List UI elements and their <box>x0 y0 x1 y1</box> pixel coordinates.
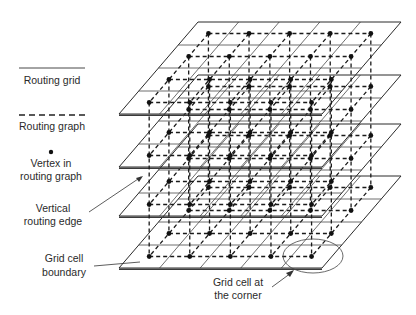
routing-vertex <box>206 133 211 138</box>
routing-vertex <box>186 208 191 213</box>
routing-vertex <box>248 179 253 184</box>
routing-vertex <box>269 100 274 105</box>
routing-vertex <box>309 254 314 259</box>
routing-vertex <box>329 231 334 236</box>
vertex-label-line2: routing graph <box>20 170 82 182</box>
routing-vertex <box>269 202 274 207</box>
routing-vertex <box>328 185 333 190</box>
routing-vertex <box>287 185 292 190</box>
routing-vertex <box>227 107 232 112</box>
routing-vertex <box>329 77 334 82</box>
routing-vertex <box>228 100 233 105</box>
routing-vertex <box>329 179 334 184</box>
routing-vertex <box>287 84 292 89</box>
routing-vertex <box>368 185 373 190</box>
routing-vertex <box>368 84 373 89</box>
routing-vertex <box>206 31 211 36</box>
routing-vertex <box>227 156 232 161</box>
vertex-label-line1: Vertex in <box>31 157 72 169</box>
routing-vertex <box>167 231 172 236</box>
routing-vertex <box>247 31 252 36</box>
routing-vertex <box>147 100 152 105</box>
vertical-edge-label-line2: routing edge <box>24 215 83 227</box>
routing-vertex <box>349 208 354 213</box>
routing-vertex <box>247 133 252 138</box>
grid-boundary-label-line1: Grid cell <box>45 252 84 264</box>
routing-vertex <box>227 208 232 213</box>
routing-vertex <box>147 202 152 207</box>
routing-vertex <box>206 84 211 89</box>
routing-vertex <box>328 133 333 138</box>
routing-vertex <box>147 254 152 259</box>
legend: Routing grid Routing graph Vertex in rou… <box>19 68 143 278</box>
layer-stack <box>119 22 401 269</box>
routing-vertex <box>228 254 233 259</box>
routing-vertex <box>269 254 274 259</box>
routing-vertex <box>368 133 373 138</box>
routing-vertex <box>167 130 172 135</box>
routing-vertex <box>349 107 354 112</box>
routing-vertex <box>186 156 191 161</box>
routing-vertex <box>287 133 292 138</box>
routing-vertex <box>228 202 233 207</box>
routing-vertex <box>227 54 232 59</box>
routing-vertex <box>187 100 192 105</box>
routing-vertex <box>187 254 192 259</box>
routing-vertex <box>309 100 314 105</box>
routing-vertex <box>267 156 272 161</box>
routing-vertex <box>247 84 252 89</box>
routing-vertex <box>206 185 211 190</box>
corner-label-line2: the corner <box>214 289 262 301</box>
routing-vertex <box>328 31 333 36</box>
corner-label-line1: Grid cell at <box>213 276 263 288</box>
routing-vertex <box>207 179 212 184</box>
routing-vertex <box>187 202 192 207</box>
routing-vertex <box>267 107 272 112</box>
routing-vertex <box>207 231 212 236</box>
routing-vertex <box>267 54 272 59</box>
routing-vertex <box>308 208 313 213</box>
routing-vertex <box>247 185 252 190</box>
routing-vertex <box>186 107 191 112</box>
routing-vertex <box>328 84 333 89</box>
routing-grid-label: Routing grid <box>24 74 81 86</box>
routing-vertex <box>186 54 191 59</box>
routing-vertex <box>349 54 354 59</box>
routing-vertex <box>267 208 272 213</box>
routing-vertex <box>309 202 314 207</box>
vertical-edge-label-line1: Vertical <box>36 202 70 214</box>
routing-vertex <box>167 179 172 184</box>
routing-vertex <box>349 156 354 161</box>
routing-vertex <box>368 31 373 36</box>
routing-vertex <box>167 77 172 82</box>
3d-routing-grid-diagram: Routing grid Routing graph Vertex in rou… <box>0 0 416 315</box>
routing-vertex <box>287 31 292 36</box>
routing-vertex <box>288 77 293 82</box>
routing-vertex <box>308 54 313 59</box>
vertex-legend-icon <box>49 150 53 154</box>
routing-graph-label: Routing graph <box>19 120 85 132</box>
vertical-edge-arrowhead <box>136 176 143 182</box>
routing-vertex <box>248 77 253 82</box>
routing-vertex <box>288 231 293 236</box>
routing-vertex <box>308 107 313 112</box>
routing-vertex <box>147 153 152 158</box>
routing-vertex <box>308 156 313 161</box>
grid-boundary-label-line2: boundary <box>42 266 87 278</box>
routing-vertex <box>248 231 253 236</box>
routing-vertex <box>288 179 293 184</box>
routing-vertex <box>207 77 212 82</box>
